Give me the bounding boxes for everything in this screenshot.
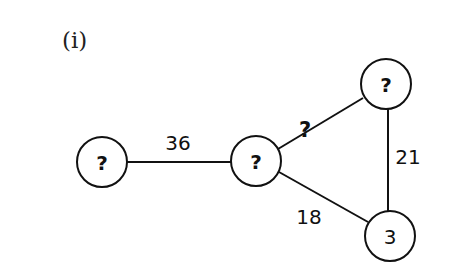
node-b: ? [231, 136, 281, 186]
node-c-label: ? [380, 73, 392, 97]
edge-label-c-d: 21 [395, 145, 420, 169]
edge-label-a-b: 36 [165, 131, 190, 155]
edge-label-b-c: ? [299, 118, 311, 142]
edge-b-c [278, 98, 363, 149]
node-a-label: ? [96, 151, 108, 175]
graph-diagram: (i) 36 ? 21 18 ? ? ? 3 [0, 0, 454, 280]
node-a: ? [77, 137, 127, 187]
node-c: ? [361, 59, 411, 109]
part-label: (i) [62, 27, 87, 53]
node-d: 3 [365, 211, 415, 261]
edge-b-d [279, 172, 368, 222]
node-d-label: 3 [384, 225, 397, 249]
edge-label-b-d: 18 [296, 205, 321, 229]
node-b-label: ? [250, 150, 262, 174]
